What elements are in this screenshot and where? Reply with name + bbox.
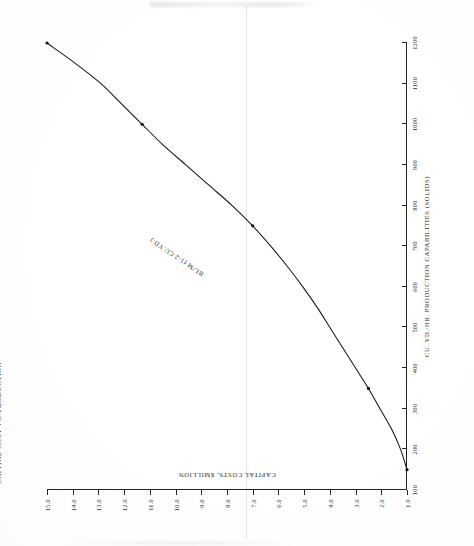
y-tick bbox=[150, 490, 151, 495]
curve-path bbox=[47, 43, 407, 470]
y-tick-label: 9.0 bbox=[198, 499, 205, 508]
x-tick-label: 600 bbox=[411, 282, 418, 292]
x-tick-label: 400 bbox=[411, 363, 418, 373]
y-tick-label: 12.0 bbox=[121, 499, 128, 511]
y-tick bbox=[356, 490, 357, 495]
y-tick-label: 15.0 bbox=[44, 499, 51, 511]
y-tick bbox=[201, 490, 202, 495]
y-tick-label: 5.0 bbox=[301, 499, 308, 508]
x-tick-label: 100 bbox=[411, 485, 418, 495]
y-tick-label: 4.0 bbox=[327, 499, 334, 508]
y-tick bbox=[176, 490, 177, 495]
y-tick-label: 11.0 bbox=[147, 499, 154, 511]
y-tick-label: 14.0 bbox=[70, 499, 77, 511]
data-point-marker bbox=[141, 123, 144, 126]
title-block: FIGURE 3 BL/M DREDGES CAPITAL COST VS. P… bbox=[0, 254, 3, 484]
data-point-marker bbox=[367, 387, 370, 390]
y-tick-label: 7.0 bbox=[250, 499, 257, 508]
y-tick bbox=[330, 490, 331, 495]
y-tick-label: 10.0 bbox=[173, 499, 180, 511]
x-tick-label: 700 bbox=[411, 241, 418, 251]
x-tick-label: 200 bbox=[411, 444, 418, 454]
x-tick-label: 1200 bbox=[411, 36, 418, 50]
y-tick bbox=[253, 490, 254, 495]
chart-subtitle: CAPITAL COST VS. PRODUCTION bbox=[0, 254, 3, 484]
y-tick-label: 6.0 bbox=[275, 499, 282, 508]
figure-canvas: FIGURE 3 BL/M DREDGES CAPITAL COST VS. P… bbox=[0, 0, 474, 546]
y-tick-label: 2.0 bbox=[378, 499, 385, 508]
y-tick bbox=[304, 490, 305, 495]
y-tick bbox=[124, 490, 125, 495]
y-tick bbox=[407, 490, 408, 495]
y-tick-label: 8.0 bbox=[224, 499, 231, 508]
data-point-marker bbox=[405, 468, 408, 471]
x-tick-label: 900 bbox=[411, 160, 418, 170]
y-tick bbox=[73, 490, 74, 495]
y-tick bbox=[278, 490, 279, 495]
y-tick-label: 3.0 bbox=[353, 499, 360, 508]
capital-cost-curve bbox=[47, 43, 407, 490]
y-tick bbox=[98, 490, 99, 495]
data-point-marker bbox=[45, 41, 48, 44]
y-tick bbox=[47, 490, 48, 495]
y-tick-label: 13.0 bbox=[95, 499, 102, 511]
x-tick-label: 800 bbox=[411, 200, 418, 210]
data-point-markers bbox=[45, 41, 408, 471]
y-axis-title: CAPITAL COSTS, $MILLION bbox=[178, 472, 275, 479]
x-tick-label: 500 bbox=[411, 322, 418, 332]
plot-area: 100200300400500600700800900100011001200 … bbox=[47, 43, 407, 490]
x-axis-title: CU. YD./HR. PRODUCTION CAPABILITIES (SOL… bbox=[423, 176, 430, 357]
x-tick-label: 1100 bbox=[411, 77, 418, 90]
x-tick-label: 1000 bbox=[411, 117, 418, 131]
x-tick-label: 300 bbox=[411, 404, 418, 414]
y-tick bbox=[381, 490, 382, 495]
y-tick bbox=[227, 490, 228, 495]
y-tick-label: 1.0 bbox=[404, 499, 411, 508]
data-point-marker bbox=[251, 224, 254, 227]
